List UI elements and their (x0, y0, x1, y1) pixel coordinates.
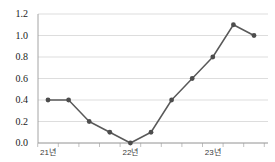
x-tick-label: 23년 (205, 148, 221, 157)
x-tick-label: 21년 (40, 148, 56, 157)
x-tick-label: 22년 (122, 148, 138, 157)
line-chart: 0.00.20.40.60.81.01.2 21년22년23년 (0, 0, 275, 162)
x-axis-labels: 21년22년23년 (0, 0, 275, 162)
